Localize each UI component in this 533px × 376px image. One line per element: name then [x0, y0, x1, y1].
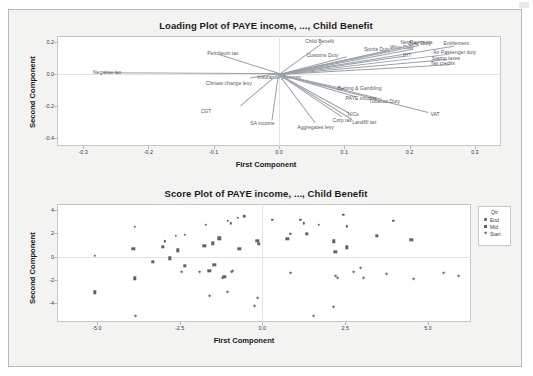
score-ytick-3: -2 [35, 277, 54, 283]
loading-vector-label-14: Child Benefit [305, 38, 334, 44]
loading-xtickmark [148, 146, 149, 149]
loading-xtickmark [214, 146, 215, 149]
score-point-start-3 [207, 294, 211, 298]
loading-xtickmark [279, 146, 280, 149]
score-point-mid-2 [133, 276, 136, 279]
screenshot-root: Loading Plot of PAYE income, ..., Child … [0, 0, 533, 376]
score-ytickmark [54, 233, 57, 234]
score-point-mid-1 [131, 247, 134, 250]
score-point-mid-19 [332, 240, 335, 243]
score-point-mid-22 [375, 234, 378, 237]
score-origin-hline [57, 257, 471, 258]
score-point-mid-18 [305, 232, 308, 235]
score-origin-vline [262, 204, 263, 322]
score-point-mid-16 [257, 242, 260, 245]
score-point-start-16 [358, 265, 362, 269]
loading-vector-label-1: Petroleum tax [207, 50, 238, 56]
score-point-start-2 [197, 270, 201, 274]
score-ytickmark [54, 303, 57, 304]
score-point-start-6 [230, 268, 234, 272]
score-xtick-3: 2.5 [341, 325, 349, 331]
score-point-mid-8 [203, 244, 206, 247]
score-point-mid-23 [410, 238, 413, 241]
score-plot-panel: Score Plot of PAYE income, ..., Child Be… [19, 186, 513, 358]
score-point-start-21 [456, 274, 460, 278]
loading-ytickmark [54, 106, 57, 107]
score-ytick-1: 2 [35, 230, 54, 236]
loading-xtickmark [344, 146, 345, 149]
score-ytick-4: -4 [35, 300, 54, 306]
loading-xtick-3: 0.0 [275, 149, 283, 155]
loading-vector-label-20: Entitlement [444, 40, 469, 46]
score-point-start-20 [441, 271, 445, 275]
loading-ytickmark [54, 138, 57, 139]
loading-plot-xlabel: First Component [19, 160, 513, 169]
legend-item-start[interactable]: Start [481, 230, 508, 237]
score-xtick-1: -2.5 [175, 325, 184, 331]
loading-origin-vline [279, 36, 280, 146]
loading-xtick-0: -0.3 [78, 149, 87, 155]
loading-xtickmark [475, 146, 476, 149]
loading-plot-panel: Loading Plot of PAYE income, ..., Child … [19, 20, 513, 182]
score-point-mid-20 [334, 250, 337, 253]
score-plot-title: Score Plot of PAYE income, ..., Child Be… [19, 188, 513, 199]
score-ytick-0: 4 [35, 207, 54, 213]
score-point-start-0 [133, 313, 137, 317]
legend-label-end: End [490, 217, 499, 223]
score-point-start-18 [384, 271, 388, 275]
score-point-start-17 [361, 276, 365, 280]
score-xtick-4: 5.0 [424, 325, 432, 331]
loading-xtick-4: 0.1 [341, 149, 349, 155]
score-ytick-2: 0 [35, 254, 54, 260]
score-plot-xlabel: First Component [0, 336, 513, 345]
score-point-mid-4 [168, 257, 171, 260]
score-point-mid-14 [237, 247, 240, 250]
legend-item-end[interactable]: End [481, 216, 508, 223]
loading-xtick-1: -0.2 [144, 149, 153, 155]
loading-vector-label-19: Beer Duty [408, 40, 431, 46]
score-xtickmark [180, 322, 181, 325]
loading-vector-label-4: CGT [201, 108, 212, 114]
loading-vector-label-0: Negative tax [93, 69, 121, 75]
score-point-mid-12 [213, 263, 216, 266]
score-point-mid-5 [151, 260, 154, 263]
loading-vector-label-23: Tax credits [430, 60, 454, 66]
loading-vector-label-8: Landfill tax [352, 119, 376, 125]
score-point-start-1 [179, 270, 183, 274]
score-point-mid-6 [176, 248, 179, 251]
score-point-start-10 [288, 271, 292, 275]
score-point-mid-17 [285, 237, 288, 240]
score-plot-axes [57, 204, 471, 322]
score-point-mid-9 [211, 241, 214, 244]
loading-plot-title: Loading Plot of PAYE income, ..., Child … [19, 20, 513, 31]
loading-xtick-6: 0.3 [471, 149, 479, 155]
loading-vector-label-9: NICs [348, 111, 359, 117]
loading-xtickmark [410, 146, 411, 149]
loading-vector-label-12: PAYE income [346, 95, 377, 101]
loading-ytick-3: -0.4 [35, 135, 54, 141]
loading-plot-ylabel: Second Component [28, 56, 37, 128]
score-xtickmark [262, 322, 263, 325]
loading-xtick-2: -0.1 [209, 149, 218, 155]
score-point-mid-10 [218, 237, 221, 240]
loading-ytickmark [54, 42, 57, 43]
legend-marker-start-icon [483, 231, 488, 236]
legend-marker-end-icon [483, 217, 488, 222]
score-point-start-14 [335, 276, 339, 280]
score-point-start-19 [411, 277, 415, 281]
loading-xtick-5: 0.2 [406, 149, 414, 155]
loading-ytick-2: -0.2 [35, 103, 54, 109]
legend-item-mid[interactable]: Mid [481, 223, 508, 230]
score-point-start-8 [255, 296, 259, 300]
score-plot-legend: Qtr End Mid Start [478, 206, 511, 246]
score-xtickmark [345, 322, 346, 325]
score-point-mid-3 [161, 245, 164, 248]
score-point-mid-21 [345, 246, 348, 249]
legend-label-start: Start [490, 231, 501, 237]
loading-vector-label-13: Betting & Gambling [338, 85, 382, 91]
page-corner-artifact [519, 2, 529, 8]
score-point-mid-7 [183, 264, 186, 267]
score-plot-ylabel: Second Component [28, 232, 37, 304]
score-point-start-9 [252, 303, 256, 307]
loading-ytick-0: 0.2 [35, 39, 54, 45]
